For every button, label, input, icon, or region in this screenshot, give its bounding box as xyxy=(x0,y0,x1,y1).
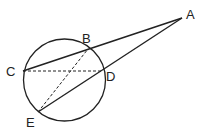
label-B: B xyxy=(82,31,91,46)
chord-EB xyxy=(38,49,88,112)
secant-EA xyxy=(38,18,182,112)
label-E: E xyxy=(26,115,35,130)
label-C: C xyxy=(6,64,15,79)
label-A: A xyxy=(186,7,195,22)
geometry-diagram: A B C D E xyxy=(0,0,203,131)
label-D: D xyxy=(106,69,115,84)
circle xyxy=(24,39,106,121)
